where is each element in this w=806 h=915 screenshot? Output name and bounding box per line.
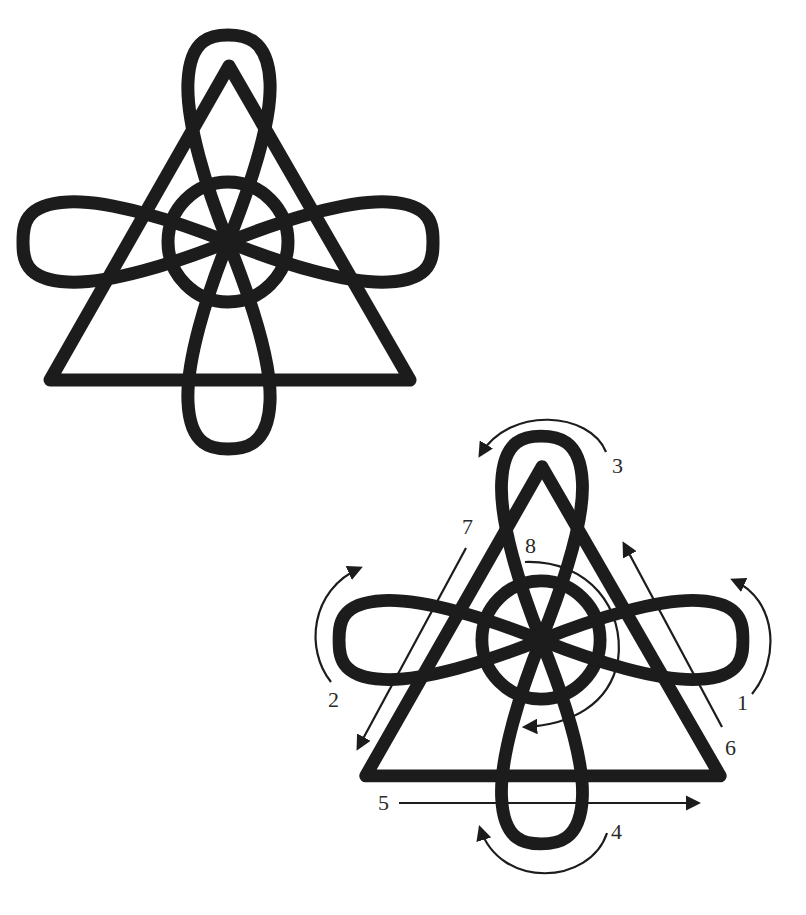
step-label-3: 3 (612, 455, 623, 477)
step-label-6: 6 (725, 737, 736, 759)
step-label-1: 1 (737, 692, 748, 714)
step-label-2: 2 (328, 689, 339, 711)
step-label-4: 4 (611, 821, 622, 843)
plain-knot-figure (23, 35, 433, 449)
arrow-step-7 (358, 548, 466, 748)
step-label-7: 7 (462, 516, 473, 538)
diagram-canvas (0, 0, 806, 915)
annotated-knot-figure (339, 436, 743, 844)
step-label-5: 5 (378, 792, 389, 814)
arrow-step-4 (480, 828, 607, 873)
step-label-8: 8 (525, 535, 536, 557)
